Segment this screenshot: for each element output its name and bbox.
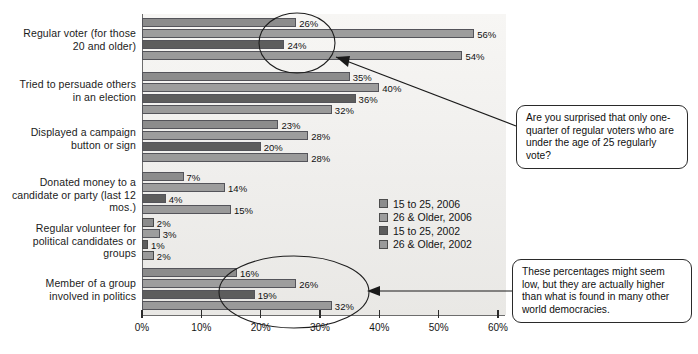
legend: 15 to 25, 200626 & Older, 200615 to 25, … [379,197,472,251]
category-label: Regular volunteer for political candidat… [10,222,136,260]
bar-value-label: 32% [335,302,354,311]
bar-value-label: 3% [163,230,177,239]
bar [142,153,308,162]
x-axis-tick [438,310,440,318]
bar-value-label: 1% [151,241,165,250]
chart-figure: Regular voter (for those 20 and older)Tr… [0,0,698,354]
legend-swatch-icon [379,226,388,235]
x-axis-tick [141,310,143,318]
x-axis-tick-label: 20% [251,322,271,333]
callout-world-democracies: These percentages might seem low, but th… [512,259,692,323]
bar-value-label: 32% [335,106,354,115]
x-axis-tick [260,310,262,318]
bar [142,120,278,129]
bar [142,290,255,299]
bar [142,83,379,92]
legend-label: 26 & Older, 2002 [393,238,472,250]
bar [142,268,237,277]
bar-value-label: 56% [477,30,496,39]
category-label: Regular voter (for those 20 and older) [10,27,136,52]
bar [142,229,160,238]
bar-value-label: 4% [169,195,183,204]
bar-value-label: 19% [258,291,277,300]
callout-regular-voters: Are you surprised that only one-quarter … [516,105,688,169]
x-axis-tick-label: 60% [488,322,508,333]
bar-value-label: 2% [157,219,171,228]
bar [142,205,231,214]
bar-value-label: 15% [234,206,253,215]
bar-value-label: 14% [228,184,247,193]
legend-item: 26 & Older, 2002 [379,238,472,252]
bar [142,194,166,203]
bar [142,72,350,81]
legend-item: 26 & Older, 2006 [379,211,472,225]
bar-value-label: 35% [353,73,372,82]
legend-label: 15 to 25, 2006 [393,198,460,210]
bar-value-label: 40% [382,84,401,93]
bar-value-label: 54% [465,52,484,61]
bar-value-label: 28% [311,154,330,163]
bar-value-label: 28% [311,132,330,141]
bar [142,142,261,151]
legend-label: 26 & Older, 2006 [393,211,472,223]
bar-value-label: 16% [240,269,259,278]
bar-value-label: 26% [299,280,318,289]
category-label: Donated money to a candidate or party (l… [10,176,136,214]
x-axis-tick [379,310,381,318]
bar [142,131,308,140]
bar-value-label: 2% [157,252,171,261]
bar-value-label: 23% [281,121,300,130]
legend-item: 15 to 25, 2006 [379,197,472,211]
bar [142,301,332,310]
x-axis-tick-label: 30% [310,322,330,333]
category-label: Member of a group involved in politics [10,277,136,302]
bar [142,218,154,227]
legend-swatch-icon [379,213,388,222]
bar [142,251,154,260]
bar-value-label: 7% [187,173,201,182]
x-axis-tick-label: 50% [429,322,449,333]
bar [142,29,474,38]
category-label: Tried to persuade others in an election [10,78,136,103]
bar [142,40,284,49]
legend-swatch-icon [379,199,388,208]
category-label: Displayed a campaign button or sign [10,126,136,151]
bar [142,105,332,114]
x-axis-tick-label: 40% [369,322,389,333]
legend-label: 15 to 25, 2002 [393,225,460,237]
bar [142,279,296,288]
legend-item: 15 to 25, 2002 [379,224,472,238]
bar [142,18,296,27]
x-axis-tick-label: 10% [191,322,211,333]
bar-value-label: 26% [299,19,318,28]
x-axis-tick [497,310,499,318]
x-axis-tick [319,310,321,318]
legend-swatch-icon [379,240,388,249]
bar [142,240,148,249]
bar-value-label: 36% [359,95,378,104]
x-axis-line [142,315,505,316]
bar-value-label: 20% [264,143,283,152]
bar [142,51,462,60]
bar-value-label: 24% [287,41,306,50]
bar [142,94,356,103]
bar [142,172,184,181]
bar [142,183,225,192]
x-axis-tick [201,310,203,318]
x-axis-tick-label: 0% [135,322,149,333]
